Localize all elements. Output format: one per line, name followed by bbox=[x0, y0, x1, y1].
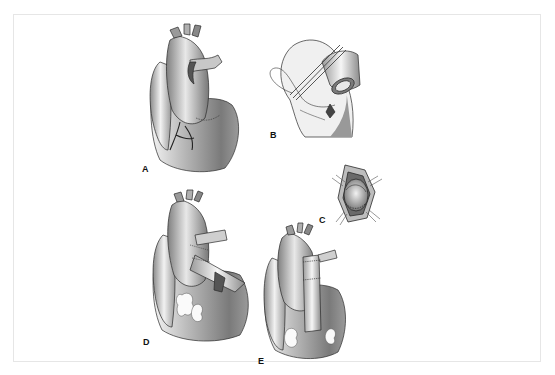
panel-a-heart bbox=[150, 24, 239, 172]
panel-d-heart-graft bbox=[153, 190, 248, 341]
panel-label-c: C bbox=[319, 216, 326, 225]
figure-illustration bbox=[0, 0, 555, 375]
panel-e-heart-tube-graft bbox=[264, 223, 346, 359]
panel-c-valve-view bbox=[332, 165, 382, 225]
panel-b-aortic-root bbox=[270, 40, 360, 137]
panel-label-e: E bbox=[258, 357, 264, 366]
panel-label-a: A bbox=[142, 165, 149, 174]
panel-label-b: B bbox=[270, 131, 277, 140]
panel-label-d: D bbox=[143, 338, 150, 347]
